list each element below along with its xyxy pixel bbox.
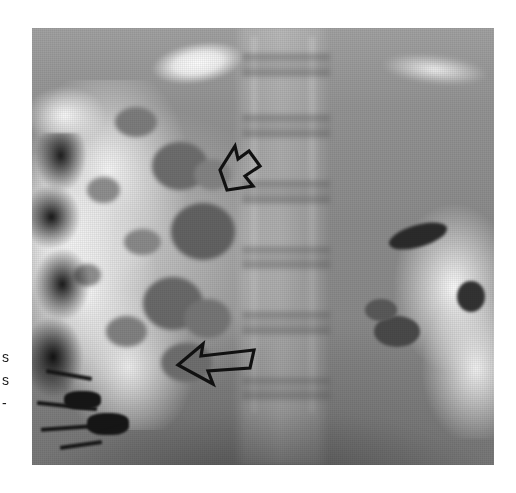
vertebral-band: [242, 115, 330, 137]
barium-mottle: [106, 316, 148, 347]
barium-mottle: [115, 107, 157, 138]
vertebral-band: [242, 54, 330, 76]
gas-filled-segment-left-edge: [32, 133, 92, 413]
gas-pocket: [365, 299, 397, 321]
barium-mottle: [194, 159, 231, 190]
radiograph-image: [32, 28, 494, 465]
barium-mottle: [171, 203, 236, 260]
gas-pocket: [457, 281, 485, 312]
figure-page: s s -: [0, 0, 516, 493]
vertebral-band: [242, 181, 330, 203]
margin-text-line-1: s: [2, 346, 26, 369]
barium-mottle: [87, 177, 119, 203]
gas-pocket: [374, 316, 420, 347]
pedicle-track-left: [251, 37, 257, 413]
pelvis-shadow: [32, 378, 494, 465]
barium-mottle: [184, 299, 230, 338]
vertebral-band: [242, 247, 330, 269]
barium-mottle: [161, 343, 212, 382]
margin-text-line-3: -: [2, 392, 26, 415]
margin-text-column: s s -: [2, 346, 26, 415]
pedicle-track-right: [309, 37, 315, 413]
vertebral-band: [242, 312, 330, 334]
margin-text-line-2: s: [2, 369, 26, 392]
